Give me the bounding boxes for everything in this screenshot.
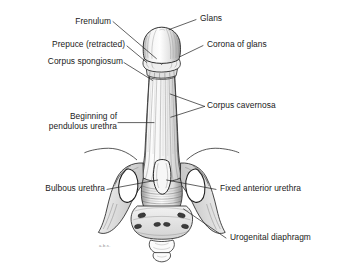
leader-glans xyxy=(169,20,196,30)
label-corpus-spongiosum: Corpus spongiosum xyxy=(48,57,123,67)
coccyx xyxy=(149,240,174,262)
label-pendulous-urethra-line2: pendulous urethra xyxy=(49,121,117,131)
label-fixed-anterior-urethra: Fixed anterior urethra xyxy=(220,184,301,194)
label-frenulum: Frenulum xyxy=(75,17,111,27)
leader-corona xyxy=(179,46,203,57)
label-corpus-cavernosa: Corpus cavernosa xyxy=(207,101,276,111)
urogenital-diaphragm xyxy=(131,206,193,239)
fixed-anterior-urethra xyxy=(153,159,171,194)
label-urogenital-diaphragm: Urogenital diaphragm xyxy=(230,233,311,243)
label-pendulous-urethra-line1: Beginning of xyxy=(70,111,117,121)
label-glans: Glans xyxy=(200,14,222,24)
anatomy-figure: Frenulum Prepuce (retracted) Corpus spon… xyxy=(0,0,341,276)
label-corona-of-glans: Corona of glans xyxy=(207,40,267,50)
glans xyxy=(143,27,180,63)
label-bulbous-urethra: Bulbous urethra xyxy=(45,184,105,194)
label-pendulous-urethra: Beginning of pendulous urethra xyxy=(17,112,117,131)
label-prepuce: Prepuce (retracted) xyxy=(52,40,125,50)
artist-signature: a.b.s. xyxy=(99,243,111,248)
